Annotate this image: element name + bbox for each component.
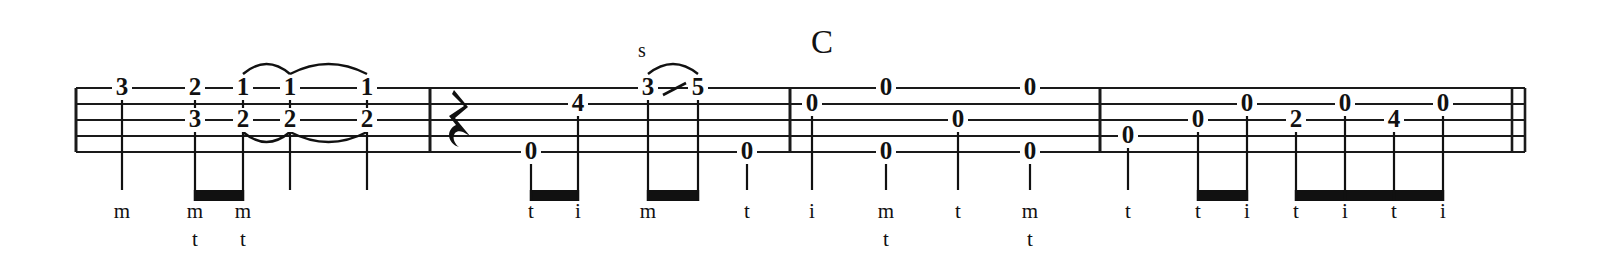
fingering-label: m — [187, 199, 203, 223]
fret-number: 2 — [361, 105, 374, 132]
articulations-group: s — [638, 39, 646, 61]
fret-number: 2 — [1290, 105, 1303, 132]
fingering-label: i — [575, 199, 581, 223]
fret-number: 3 — [189, 105, 202, 132]
fret-number: 4 — [572, 89, 585, 116]
fingering-label: t — [1391, 199, 1397, 223]
fingering-label: m — [640, 199, 656, 223]
fret-number: 0 — [880, 137, 893, 164]
fingering-labels-group: mmtmttimtimttmtttititi — [114, 199, 1446, 251]
fret-number: 0 — [1024, 73, 1037, 100]
fret-number: 2 — [284, 105, 297, 132]
fingering-label: i — [1244, 199, 1250, 223]
fret-number: 0 — [880, 73, 893, 100]
fret-number: 4 — [1388, 105, 1401, 132]
fret-number: 0 — [1241, 89, 1254, 116]
articulation-slide-label: s — [638, 39, 646, 61]
fingering-label: t — [744, 199, 750, 223]
fret-number: 0 — [741, 137, 754, 164]
chord-symbol: C — [811, 24, 833, 60]
slur-tie — [290, 64, 367, 74]
fingering-label-secondary: t — [883, 227, 889, 251]
fret-number: 1 — [237, 73, 250, 100]
chord-symbols-group: C — [811, 24, 833, 60]
quarter-rest-icon — [449, 90, 470, 147]
slur-tie — [648, 64, 698, 74]
tablature-page: 323121212043500000000002040 C s mmtmttim… — [0, 0, 1597, 264]
fingering-label: m — [1022, 199, 1038, 223]
fret-number: 3 — [116, 73, 129, 100]
fingering-label: i — [809, 199, 815, 223]
beam — [530, 190, 579, 201]
beam — [1197, 190, 1248, 201]
fret-number: 0 — [806, 89, 819, 116]
fret-number: 0 — [952, 105, 965, 132]
fret-numbers-group: 323121212043500000000002040 — [112, 73, 1453, 164]
fret-number: 3 — [642, 73, 655, 100]
beams-group — [194, 190, 1444, 201]
fingering-label-secondary: t — [192, 227, 198, 251]
fingering-label-secondary: t — [1027, 227, 1033, 251]
tablature-staff-svg: 323121212043500000000002040 C s mmtmttim… — [0, 0, 1597, 264]
fingering-label: i — [1440, 199, 1446, 223]
fingering-label: t — [955, 199, 961, 223]
fingering-label-secondary: t — [240, 227, 246, 251]
fret-number: 1 — [361, 73, 374, 100]
fret-number: 0 — [1437, 89, 1450, 116]
fret-number: 0 — [1024, 137, 1037, 164]
fret-number: 2 — [237, 105, 250, 132]
fret-number: 5 — [692, 73, 705, 100]
fingering-label: t — [1195, 199, 1201, 223]
fingering-label: t — [528, 199, 534, 223]
beam — [1295, 190, 1444, 201]
fret-number: 0 — [1122, 121, 1135, 148]
fingering-label: m — [114, 199, 130, 223]
fingering-label: t — [1293, 199, 1299, 223]
fingering-label: m — [878, 199, 894, 223]
fingering-label: i — [1342, 199, 1348, 223]
fingering-label: m — [235, 199, 251, 223]
fret-number: 0 — [1192, 105, 1205, 132]
fingering-label: t — [1125, 199, 1131, 223]
rests-group — [449, 90, 470, 147]
fret-number: 0 — [525, 137, 538, 164]
fret-number: 2 — [189, 73, 202, 100]
fret-number: 1 — [284, 73, 297, 100]
fret-number: 0 — [1339, 89, 1352, 116]
